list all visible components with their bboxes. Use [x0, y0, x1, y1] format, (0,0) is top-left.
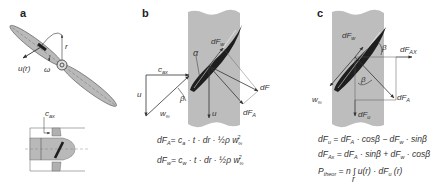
panel-b: b α β dFw dF dFA cax u u w∞ dFA= ca · t …: [137, 7, 270, 166]
equation-ptheor: Ptheor = n ∫ u(r) · dFu (r): [318, 166, 402, 177]
label-df-b: dF: [260, 83, 270, 92]
equation-dfa: dFA= ca · t · dr · ½ρ w∞2: [157, 134, 242, 146]
panel-a-label: a: [20, 7, 27, 19]
label-dfax: dFAX: [400, 45, 417, 55]
propeller-side-view: cax: [25, 109, 88, 171]
label-beta-b: β: [179, 94, 185, 103]
equation-dfax: dFAx = dFA · sinβ + dFw · cosβ: [318, 149, 430, 160]
equation-dfw: dFw= cw · t · dr · ½ρ w∞2: [157, 154, 244, 166]
label-winf-b: w∞: [160, 109, 170, 119]
label-cax-a: cax: [45, 109, 55, 119]
label-omega: ω: [44, 65, 50, 74]
label-dfa-b: dFA: [243, 108, 256, 118]
blade-force-diagram: a u(r) ω r cax: [0, 0, 438, 189]
label-cax-b: cax: [158, 65, 168, 75]
label-r: r: [65, 42, 68, 51]
panel-a: a u(r) ω r cax: [7, 7, 120, 171]
panel-b-label: b: [142, 7, 149, 19]
label-u-blade: u: [212, 109, 217, 118]
label-beta-c: β: [360, 75, 366, 84]
label-u-r: u(r): [18, 64, 31, 73]
label-u-left: u: [137, 90, 142, 99]
panel-c: c dFw β dFAX β w∞ dFA dFu dFu = dFA · co…: [312, 7, 430, 184]
label-winf-c: w∞: [312, 95, 322, 105]
panel-c-label: c: [317, 7, 323, 19]
label-dfa-c: dFA: [397, 93, 410, 103]
label-beta-top: β: [381, 43, 387, 52]
label-alpha: α: [193, 48, 199, 58]
hub-icon: [57, 60, 67, 70]
equation-dfu: dFu = dFA · cosβ − dFw · sinβ: [318, 134, 427, 145]
